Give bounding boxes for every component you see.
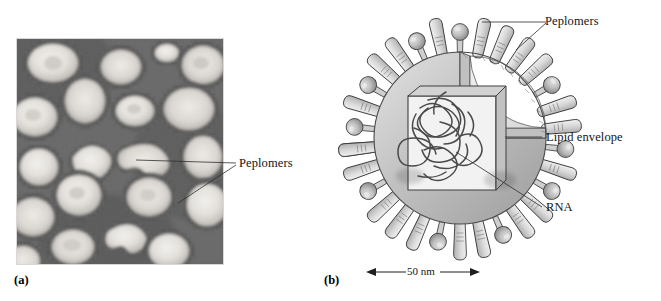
panel-letter-b: (b)	[324, 273, 339, 288]
panel-b: Peplomers Lipid envelope RNA 50 nm (b)	[300, 0, 661, 301]
figure-container: Peplomers (a)	[0, 0, 661, 301]
label-peplomers-micrograph: Peplomers	[239, 156, 293, 171]
label-rna: RNA	[546, 200, 573, 215]
electron-micrograph-image	[16, 38, 224, 265]
label-peplomers-schematic: Peplomers	[545, 14, 599, 29]
virion-schematic	[300, 0, 661, 301]
label-lipid-envelope: Lipid envelope	[546, 130, 623, 145]
scale-bar-text: 50 nm	[407, 265, 435, 277]
panel-a: Peplomers (a)	[0, 0, 300, 301]
panel-letter-a: (a)	[14, 273, 29, 288]
